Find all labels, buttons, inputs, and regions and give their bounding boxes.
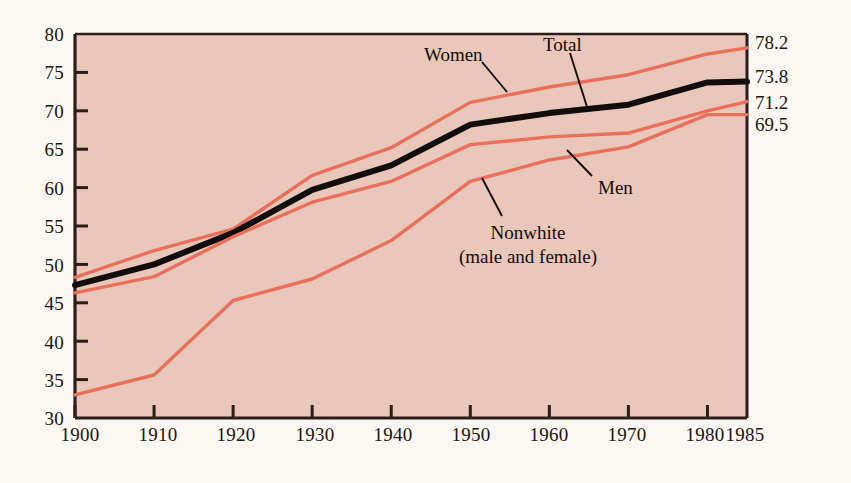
x-tick-label-1900: 1900 xyxy=(38,424,122,446)
y-tick-label-50: 50 xyxy=(24,255,64,277)
y-tick-label-70: 70 xyxy=(24,101,64,123)
y-tick-label-80: 80 xyxy=(24,24,64,46)
x-tick-label-1920: 1920 xyxy=(194,424,278,446)
y-tick-label-55: 55 xyxy=(24,216,64,238)
end-label-total: 73.8 xyxy=(755,66,788,88)
y-tick-label-65: 65 xyxy=(24,139,64,161)
series-annotation-women: Women xyxy=(424,44,483,66)
end-label-men: 71.2 xyxy=(755,92,788,114)
x-tick-label-1970: 1970 xyxy=(585,424,669,446)
x-tick-label-1910: 1910 xyxy=(116,424,200,446)
y-tick-label-35: 35 xyxy=(24,370,64,392)
end-label-nonwhite: 69.5 xyxy=(755,114,788,136)
series-annotation-nonwhite-line2: (male and female) xyxy=(422,245,634,269)
y-tick-label-40: 40 xyxy=(24,332,64,354)
y-tick-label-60: 60 xyxy=(24,178,64,200)
y-tick-label-45: 45 xyxy=(24,293,64,315)
end-label-women: 78.2 xyxy=(755,32,788,54)
x-tick-label-1940: 1940 xyxy=(351,424,435,446)
series-annotation-total: Total xyxy=(543,34,582,56)
series-annotation-nonwhite-line1: Nonwhite xyxy=(422,221,634,245)
series-annotation-nonwhite: Nonwhite (male and female) xyxy=(422,221,634,270)
life-expectancy-line-chart: 80 75 70 65 60 55 50 45 40 35 30 1900 19… xyxy=(0,0,851,483)
y-tick-label-75: 75 xyxy=(24,62,64,84)
x-tick-label-1985: 1985 xyxy=(703,424,787,446)
series-annotation-men: Men xyxy=(598,177,633,199)
x-tick-label-1960: 1960 xyxy=(507,424,591,446)
x-tick-label-1930: 1930 xyxy=(273,424,357,446)
x-tick-label-1950: 1950 xyxy=(429,424,513,446)
